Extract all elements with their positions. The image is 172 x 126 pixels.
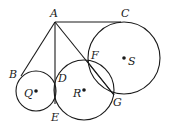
label-B: B — [8, 68, 17, 81]
label-C: C — [121, 7, 130, 20]
label-D: D — [57, 72, 67, 85]
center-dot-Q — [34, 89, 38, 93]
label-G: G — [113, 96, 122, 109]
label-A: A — [49, 7, 58, 20]
center-dot-R — [82, 88, 86, 92]
label-Q: Q — [24, 87, 33, 100]
geometry-diagram: ABCDEFGQRS — [0, 0, 172, 126]
center-dot-S — [122, 56, 126, 60]
label-E: E — [50, 111, 59, 124]
label-R: R — [72, 87, 81, 100]
segment-AB — [21, 22, 55, 76]
circles-group — [16, 22, 160, 120]
label-F: F — [90, 49, 99, 62]
label-S: S — [128, 55, 136, 68]
segment-FG — [87, 61, 114, 95]
